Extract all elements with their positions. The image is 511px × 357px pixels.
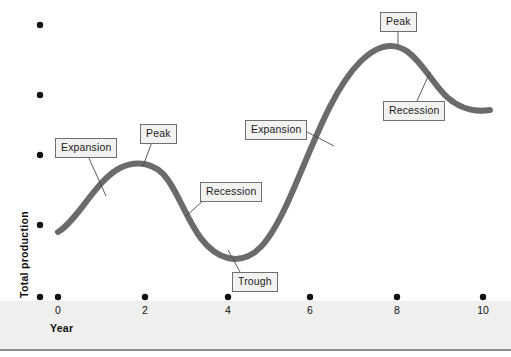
x-axis-tick-dot	[142, 294, 148, 300]
y-axis-title: Total production	[18, 211, 30, 298]
x-axis-tick-dot	[394, 294, 400, 300]
callout-recession-2: Recession	[383, 101, 445, 121]
x-axis-tick-label: 2	[133, 304, 157, 316]
y-axis-tick-dot	[37, 22, 43, 28]
y-axis-tick-dot	[37, 294, 43, 300]
callout-expansion-1: Expansion	[55, 138, 117, 158]
x-axis-tick-label: 10	[471, 304, 495, 316]
x-axis-tick-dot	[480, 294, 486, 300]
x-axis-title: Year	[50, 322, 73, 334]
x-axis-tick-label: 4	[216, 304, 240, 316]
x-axis-tick-label: 0	[46, 304, 70, 316]
callout-leader-lines	[88, 29, 430, 272]
y-axis-tick-dots	[37, 22, 43, 300]
x-axis-tick-dot	[307, 294, 313, 300]
x-axis-tick-dots	[55, 294, 486, 300]
callout-peak-2: Peak	[380, 12, 417, 32]
leader-line-recession-2	[417, 72, 430, 101]
callout-peak-1: Peak	[140, 124, 177, 144]
x-axis-tick-label: 8	[385, 304, 409, 316]
leader-line-recession-1	[186, 200, 204, 216]
x-axis-tick-dot	[225, 294, 231, 300]
plot-area	[0, 0, 511, 357]
y-axis-tick-dot	[37, 92, 43, 98]
business-cycle-figure: ExpansionPeakRecessionTroughExpansionPea…	[0, 0, 511, 357]
callout-trough: Trough	[232, 272, 278, 292]
callout-expansion-2: Expansion	[245, 120, 307, 140]
x-axis-tick-dot	[55, 294, 61, 300]
y-axis-tick-dot	[37, 152, 43, 158]
x-axis-tick-label: 6	[298, 304, 322, 316]
business-cycle-curve	[58, 46, 490, 259]
y-axis-tick-dot	[37, 222, 43, 228]
callout-recession-1: Recession	[200, 182, 262, 202]
